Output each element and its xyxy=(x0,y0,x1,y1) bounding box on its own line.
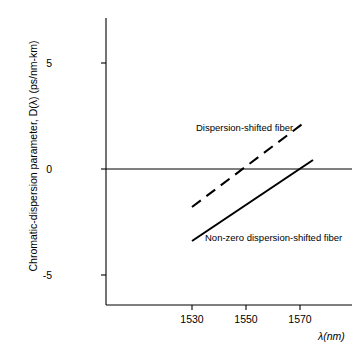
chart-plot-area xyxy=(0,0,362,356)
series-line-non-zero-dispersion-shifted-fiber xyxy=(192,160,313,241)
chart-container: Chromatic-dispersion parameter, D(λ) (ps… xyxy=(0,0,362,356)
series-line-dispersion-shifted-fiber xyxy=(192,122,305,207)
